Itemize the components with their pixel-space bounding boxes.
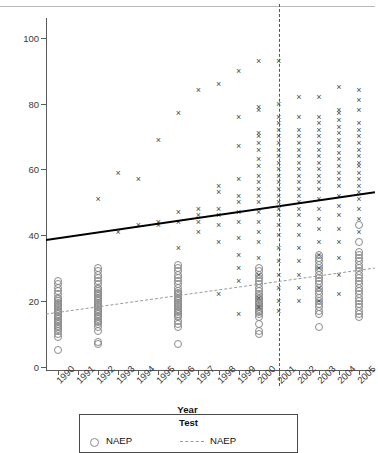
state-test-point-marker [355,87,362,94]
state-test-point-marker [295,258,302,265]
state-test-point-marker [255,199,262,206]
legend-dashed-line-icon [180,441,204,442]
state-test-point-marker [235,199,242,206]
y-tick-label-60: 60 [28,164,39,175]
state-test-point-marker [335,212,342,219]
state-test-point-marker [255,107,262,114]
state-test-point-marker [235,143,242,150]
state-test-point-marker [315,205,322,212]
state-test-point-marker [215,80,222,87]
state-test-point-marker [355,107,362,114]
state-test-point-marker [255,228,262,235]
y-tick-label-20: 20 [28,295,39,306]
state-test-point-marker [295,297,302,304]
y-tick [41,235,46,236]
state-test-point-marker [295,284,302,291]
legend-circle-marker-icon [90,438,99,447]
state-test-point-marker [175,110,182,117]
state-test-point-marker [135,176,142,183]
state-test-point-marker [255,218,262,225]
state-test-point-marker [235,218,242,225]
y-tick [41,38,46,39]
state-test-point-marker [335,192,342,199]
x-tick-label-2003: 2003 [315,363,338,386]
state-test-point-marker [215,189,222,196]
x-tick-label-2005: 2005 [355,363,378,386]
y-tick [41,104,46,105]
state-test-point-marker [235,113,242,120]
state-test-point-marker [175,218,182,225]
state-test-point-marker [335,291,342,298]
state-test-point-marker [315,93,322,100]
state-test-point-marker [235,251,242,258]
state-test-point-marker [335,225,342,232]
x-tick-label-1995: 1995 [154,363,177,386]
y-tick [41,301,46,302]
state-test-point-marker [315,265,322,272]
x-tick-label-1993: 1993 [114,363,137,386]
state-test-point-marker [295,212,302,219]
state-test-point-marker [335,202,342,209]
state-test-point-marker [355,215,362,222]
state-test-point-marker [315,284,322,291]
state-test-point-marker [295,271,302,278]
legend-box: Test NAEP NAEP [79,414,298,453]
event-vertical-line [279,4,280,386]
state-test-point-marker [295,113,302,120]
state-test-point-marker [115,228,122,235]
state-test-point-marker [335,255,342,262]
state-test-point-marker [235,67,242,74]
state-test-point-marker [235,265,242,272]
state-test-point-marker [315,297,322,304]
naep-point-marker [355,238,363,246]
legend-item-naep-points[interactable]: NAEP [106,435,132,446]
x-tick-label-1997: 1997 [194,363,217,386]
state-test-point-marker [95,195,102,202]
state-test-point-marker [155,136,162,143]
y-tick [41,169,46,170]
naep-point-marker [54,346,62,354]
legend-item-naep-trend[interactable]: NAEP [210,435,236,446]
naep-point-marker [174,340,182,348]
naep-point-marker [94,264,102,272]
y-tick-label-80: 80 [28,98,39,109]
plot-area: 020406080100 199019911992199319941995199… [46,18,375,370]
state-test-point-marker [315,215,322,222]
x-tick-label-2000: 2000 [255,363,278,386]
x-tick-label-2002: 2002 [295,363,318,386]
y-axis-line [46,18,47,370]
state-test-point-marker [195,87,202,94]
y-tick-label-0: 0 [34,361,39,372]
state-test-point-marker [135,222,142,229]
state-test-point-marker [255,146,262,153]
state-test-point-marker [355,195,362,202]
x-tick-label-1992: 1992 [94,363,117,386]
state-test-point-marker [175,209,182,216]
state-test-point-marker [255,304,262,311]
state-test-point-marker [255,294,262,301]
x-tick-label-2004: 2004 [335,363,358,386]
state-test-point-marker [215,238,222,245]
state-test-point-marker [155,222,162,229]
state-test-point-marker [255,271,262,278]
x-tick-label-1999: 1999 [235,363,258,386]
y-tick-label-40: 40 [28,230,39,241]
state-test-point-marker [335,182,342,189]
naep-point-marker [94,338,102,346]
naep-point-marker [355,248,363,256]
state-test-point-marker [315,186,322,193]
state-test-point-marker [235,176,242,183]
state-test-point-marker [195,218,202,225]
state-test-point-marker [235,278,242,285]
state-test-point-marker [295,232,302,239]
state-test-point-marker [175,245,182,252]
state-test-point-marker [295,245,302,252]
state-test-point-marker [315,195,322,202]
naep-point-marker [315,323,323,331]
header-divider [0,6,375,7]
y-tick-label-100: 100 [23,32,39,43]
x-tick-label-1998: 1998 [215,363,238,386]
x-tick-label-1994: 1994 [134,363,157,386]
x-tick-label-1990: 1990 [54,363,77,386]
